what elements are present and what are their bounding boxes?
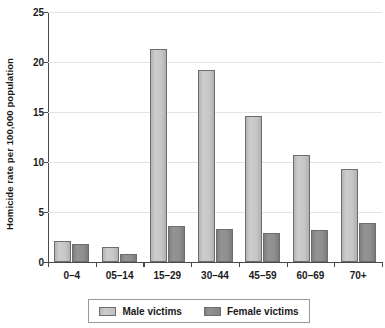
x-tick-label-0: 0–4	[64, 270, 81, 281]
y-axis-ticks: 0510152025	[0, 12, 44, 262]
bar	[359, 223, 376, 262]
x-tick-label-4: 45–59	[249, 270, 277, 281]
y-tick-label-0: 0	[4, 257, 44, 268]
y-tick-label-5: 5	[4, 207, 44, 218]
y-tick-label-20: 20	[4, 57, 44, 68]
x-tick-mark	[96, 262, 97, 267]
y-tick-label-15: 15	[4, 107, 44, 118]
x-tick-label-2: 15–29	[153, 270, 181, 281]
x-tick-label-6: 70+	[350, 270, 367, 281]
x-tick-mark	[239, 262, 240, 267]
bars-layer	[48, 12, 382, 262]
legend-label-male: Male victims	[122, 306, 181, 317]
bar	[341, 169, 358, 262]
x-axis: 0–405–1415–2930–4445–5960–6970+	[48, 262, 382, 288]
plot-area	[48, 12, 382, 262]
legend-swatch-male-icon	[99, 307, 116, 316]
y-tick-label-10: 10	[4, 157, 44, 168]
x-tick-mark	[191, 262, 192, 267]
x-tick-mark	[382, 262, 383, 267]
legend-entry-female[interactable]: Female victims	[204, 306, 299, 317]
x-tick-mark	[287, 262, 288, 267]
y-tick-label-25: 25	[4, 7, 44, 18]
x-tick-label-1: 05–14	[106, 270, 134, 281]
chart-legend: Male victims Female victims	[88, 299, 310, 323]
x-tick-label-5: 60–69	[297, 270, 325, 281]
x-tick-label-3: 30–44	[201, 270, 229, 281]
x-tick-mark	[143, 262, 144, 267]
legend-entry-male[interactable]: Male victims	[99, 306, 181, 317]
x-tick-mark	[48, 262, 49, 267]
homicide-rate-bar-chart: Homicide rate per 100,000 population 051…	[0, 0, 385, 328]
x-tick-mark	[334, 262, 335, 267]
bar-group	[48, 12, 382, 262]
legend-swatch-female-icon	[204, 307, 221, 316]
legend-label-female: Female victims	[227, 306, 299, 317]
